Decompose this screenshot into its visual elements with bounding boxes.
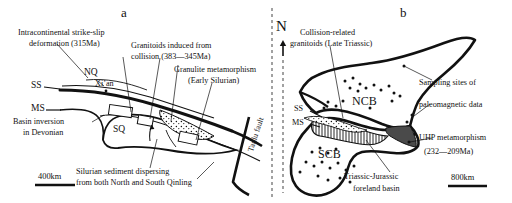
ms-suture-line-a bbox=[60, 109, 103, 140]
scale-label-a: 400km bbox=[38, 173, 61, 182]
unit-sq-a: SQ bbox=[113, 125, 125, 135]
label-foreland-basin-line1: Triassic-Jurassic bbox=[344, 173, 398, 181]
ss-leader-a bbox=[44, 87, 60, 89]
leader-granitoids bbox=[150, 58, 160, 119]
scale-label-b: 800km bbox=[451, 174, 474, 183]
unit-nq-a: NQ bbox=[84, 68, 98, 78]
north-arrow-icon bbox=[280, 40, 286, 46]
label-granitoids-line2: collision (383—345Ma) bbox=[131, 53, 210, 61]
unit-ss-a: SS bbox=[31, 81, 42, 91]
unit-ss-b: SS bbox=[294, 105, 303, 113]
unit-ms-b: MS bbox=[292, 119, 304, 127]
panel-a-letter: a bbox=[121, 6, 127, 19]
xian-city-dot bbox=[105, 90, 108, 93]
label-basin-inversion-line1: Basin inversion bbox=[13, 118, 64, 126]
label-uhp-line1: UHP metamorphism bbox=[419, 134, 486, 142]
label-paleomagnetic-data: paleomagnetic data bbox=[419, 101, 482, 109]
leader-silurian-sediment-2 bbox=[197, 162, 214, 179]
north-label: N bbox=[276, 19, 287, 34]
label-granulite-line1: Granulite metamorphism bbox=[174, 66, 256, 74]
label-strike-slip-line1: Intracontinental strike-slip bbox=[18, 29, 105, 37]
basin-box-1 bbox=[108, 105, 132, 118]
label-granulite-line2: (Early Silurian) bbox=[188, 77, 239, 85]
panel-b-letter: b bbox=[400, 6, 407, 19]
label-silurian-sediment-line1: Silurian sediment dispersing bbox=[76, 168, 169, 176]
unit-ms-a: MS bbox=[31, 104, 45, 114]
unit-scb: SCB bbox=[318, 148, 341, 160]
label-collision-granitoids-line2: granitoids (Late Triassic) bbox=[290, 40, 372, 48]
unit-ncb: NCB bbox=[352, 95, 377, 107]
city-label-xian: Xi’an bbox=[95, 80, 114, 88]
label-collision-granitoids-line1: Collision-related bbox=[300, 29, 355, 37]
label-granitoids-line1: Granitoids induced from bbox=[131, 42, 212, 50]
label-strike-slip-line2: deformation (315Ma) bbox=[29, 40, 100, 48]
geologic-figure: a b Intracontinental strike-slip deforma… bbox=[0, 0, 512, 203]
label-sampling-sites: Sampling sites of bbox=[419, 79, 476, 87]
label-uhp-line2: (232—209Ma) bbox=[424, 148, 473, 156]
label-foreland-basin-line2: foreland basin bbox=[353, 185, 400, 193]
basin-box-2 bbox=[137, 115, 153, 126]
label-silurian-sediment-line2: from both North and South Qinling bbox=[76, 179, 192, 187]
tanlu-fault-line bbox=[233, 117, 249, 195]
label-basin-inversion-line2: in Devonian bbox=[23, 129, 63, 137]
